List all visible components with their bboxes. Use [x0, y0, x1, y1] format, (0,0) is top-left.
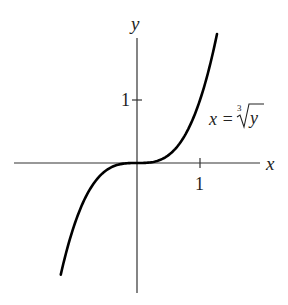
curve-label: x = 3 y — [208, 103, 264, 129]
root-index: 3 — [237, 103, 242, 113]
x-tick-label-1: 1 — [195, 174, 204, 194]
curve-cube-root — [61, 34, 217, 275]
cube-root-graph: y x 1 1 x = 3 y — [0, 0, 288, 305]
curve-label-lhs: x = — [208, 109, 234, 129]
y-axis-label: y — [129, 13, 140, 34]
radicand: y — [248, 108, 258, 128]
y-tick-label-1: 1 — [121, 90, 130, 110]
x-axis-label: x — [265, 153, 275, 174]
